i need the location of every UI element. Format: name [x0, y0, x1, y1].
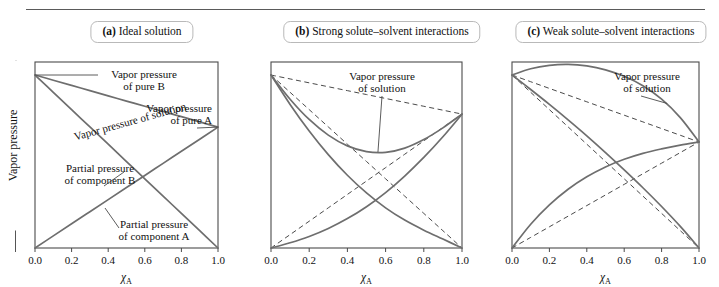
annotation-vapor-pressure-of-solution: Vapor pressureof solution — [614, 70, 680, 94]
annotation-partial-pressure-component-b: Partial pressureof component B — [65, 162, 136, 186]
series-c-raoult-ideal-partial-pressure-b — [512, 75, 699, 248]
series-b-raoult-ideal-partial-pressure-b — [271, 75, 462, 248]
x-tick-label-c-4: 0.8 — [655, 254, 669, 266]
x-tick-label-c-3: 0.6 — [617, 254, 631, 266]
x-tick-label-a-1: 0.2 — [65, 254, 79, 266]
panel-c-plot: 0.00.20.40.60.81.0χAVapor pressureof sol… — [503, 0, 719, 287]
panel-a-plot: 0.00.20.40.60.81.0χAVapor pressureof pur… — [26, 0, 258, 287]
panel-weak-interactions: (c) Weak solute–solvent interactions 0.0… — [503, 0, 719, 287]
x-tick-label-b-2: 0.4 — [341, 254, 355, 266]
x-axis-label-c: χA — [599, 271, 611, 286]
x-tick-label-a-5: 1.0 — [211, 254, 225, 266]
annotation-vapor-pressure-pure-b: Vapor pressureof pure B — [111, 68, 177, 92]
x-tick-label-b-1: 0.2 — [302, 254, 316, 266]
plot-frame-c — [512, 62, 699, 248]
x-tick-label-c-0: 0.0 — [505, 254, 519, 266]
x-axis-label-b: χA — [360, 271, 372, 286]
annotation-partial-pressure-component-a: Partial pressureof component A — [119, 218, 190, 242]
series-c-raoult-ideal-partial-pressure-a — [512, 142, 699, 248]
panel-ideal-solution: (a) Ideal solution 0.00.20.40.60.81.0χAV… — [26, 0, 258, 287]
x-axis-label-a: χA — [120, 271, 132, 286]
x-tick-label-a-3: 0.6 — [138, 254, 152, 266]
y-axis-label: Vapor pressure — [4, 61, 23, 231]
x-tick-label-b-4: 0.8 — [417, 254, 431, 266]
x-tick-label-a-2: 0.4 — [101, 254, 115, 266]
x-tick-label-c-5: 1.0 — [692, 254, 706, 266]
x-tick-label-c-2: 0.4 — [580, 254, 594, 266]
panel-b-plot: 0.00.20.40.60.81.0χAVapor pressureof sol… — [262, 0, 502, 287]
leader-vapor-pressure-pure-a — [197, 127, 218, 128]
x-tick-label-b-3: 0.6 — [379, 254, 393, 266]
x-tick-label-c-1: 0.2 — [543, 254, 557, 266]
x-tick-label-b-0: 0.0 — [264, 254, 278, 266]
figure-root: Vapor pressure (a) Ideal solution 0.00.2… — [0, 0, 719, 287]
annotation-vapor-pressure-of-solution: Vapor pressureof solution — [349, 70, 415, 94]
x-tick-label-a-4: 0.8 — [175, 254, 189, 266]
y-axis-label-group: Vapor pressure — [2, 60, 24, 252]
panel-strong-interactions: (b) Strong solute–solvent interactions 0… — [262, 0, 502, 287]
x-tick-label-a-0: 0.0 — [28, 254, 42, 266]
x-tick-label-b-5: 1.0 — [455, 254, 469, 266]
leader-partial-pressure-component-a — [105, 208, 119, 228]
leader-vapor-pressure-of-solution — [378, 96, 382, 152]
